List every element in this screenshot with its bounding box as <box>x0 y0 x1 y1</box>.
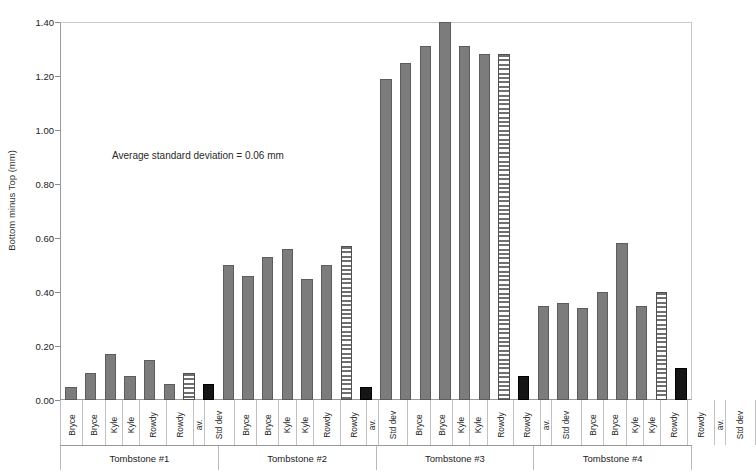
x-axis-category-label: Bryce <box>431 400 453 445</box>
y-axis-tick-label: 0.00 <box>18 395 54 406</box>
x-axis-category-label-text: Bryce <box>610 414 620 435</box>
bar[interactable] <box>400 63 411 401</box>
bar[interactable] <box>65 387 76 401</box>
bar[interactable] <box>656 292 667 400</box>
bar[interactable] <box>282 249 293 400</box>
x-axis-category-label-text: Std dev <box>562 411 572 439</box>
bar-slot <box>297 23 317 400</box>
x-axis-category-label: Std dev <box>726 400 755 445</box>
x-axis-category-label-text: Kyle <box>630 417 640 433</box>
bar[interactable] <box>164 384 175 400</box>
category-label-group: BryceBryceKyleKyleRowdyRowdyav.Std dev <box>235 400 409 445</box>
x-axis-category-label-text: Bryce <box>89 414 99 435</box>
bar[interactable] <box>85 373 96 400</box>
x-axis-category-label: av. <box>367 400 379 445</box>
x-axis-category-label: Kyle <box>453 400 470 445</box>
x-axis-category-label: Bryce <box>235 400 257 445</box>
bar[interactable] <box>538 306 549 401</box>
x-axis-category-label: Kyle <box>627 400 644 445</box>
x-axis-category-label-text: Rowdy <box>669 412 679 438</box>
bar[interactable] <box>498 54 509 400</box>
x-axis-category-label-text: Kyle <box>474 417 484 433</box>
x-axis-category-label: Bryce <box>83 400 105 445</box>
x-axis-category-label: Bryce <box>408 400 430 445</box>
x-axis-category-label-text: Rowdy <box>348 412 358 438</box>
bar[interactable] <box>144 360 155 401</box>
bar-slot <box>317 23 337 400</box>
bar-slot <box>81 23 101 400</box>
y-axis-tick-label: 1.20 <box>18 71 54 82</box>
x-axis-category-label: Rowdy <box>661 400 688 445</box>
bar[interactable] <box>301 279 312 401</box>
x-axis-category-label-text: Rowdy <box>522 412 532 438</box>
bar-slot <box>573 23 593 400</box>
x-axis-category-label: Rowdy <box>341 400 368 445</box>
x-axis-category-label-text: Bryce <box>67 414 77 435</box>
x-axis-category-label: Bryce <box>604 400 626 445</box>
x-axis-category-label: av. <box>541 400 553 445</box>
x-axis-category-label-text: Rowdy <box>175 412 185 438</box>
bar-series-layer <box>61 23 691 400</box>
bar[interactable] <box>518 376 529 400</box>
x-axis-category-label-text: Bryce <box>263 414 273 435</box>
y-axis-tick-label: 1.40 <box>18 17 54 28</box>
bar[interactable] <box>105 354 116 400</box>
bar-slot <box>671 23 691 400</box>
y-axis-tick-label: 1.00 <box>18 125 54 136</box>
bar-slot <box>179 23 199 400</box>
bar[interactable] <box>124 376 135 400</box>
bar[interactable] <box>341 246 352 400</box>
x-axis-category-label: Rowdy <box>167 400 194 445</box>
bar-slot <box>376 23 396 400</box>
x-axis-category-label-text: Rowdy <box>148 412 158 438</box>
bar[interactable] <box>557 303 568 400</box>
bar[interactable] <box>479 54 490 400</box>
bar-slot <box>278 23 298 400</box>
bar-slot <box>553 23 573 400</box>
x-axis-category-label: Kyle <box>279 400 296 445</box>
bar-group <box>219 23 377 400</box>
bar-slot <box>238 23 258 400</box>
x-axis-category-label-text: Kyle <box>109 417 119 433</box>
x-axis-category-label-text: Bryce <box>240 414 250 435</box>
x-axis-category-label-text: Kyle <box>126 417 136 433</box>
x-axis-group-label: Tombstone #1 <box>60 446 219 470</box>
x-axis-group-label: Tombstone #2 <box>219 446 377 470</box>
x-axis-category-label: av. <box>194 400 206 445</box>
bar-slot <box>415 23 435 400</box>
x-axis-group-label: Tombstone #3 <box>377 446 535 470</box>
bar[interactable] <box>242 276 253 400</box>
x-axis-category-label: Rowdy <box>488 400 515 445</box>
bar[interactable] <box>223 265 234 400</box>
bar[interactable] <box>636 306 647 401</box>
bar[interactable] <box>321 265 332 400</box>
bar[interactable] <box>616 243 627 400</box>
bar-slot <box>593 23 613 400</box>
x-axis-category-label: Kyle <box>123 400 140 445</box>
x-axis-category-label: Kyle <box>470 400 487 445</box>
x-axis-category-label-text: Bryce <box>436 414 446 435</box>
x-axis-category-label: Kyle <box>297 400 314 445</box>
bar[interactable] <box>439 22 450 400</box>
bar-slot <box>612 23 632 400</box>
bar[interactable] <box>420 46 431 400</box>
bar-slot <box>396 23 416 400</box>
x-axis-category-label-text: Rowdy <box>322 412 332 438</box>
y-axis-tick-label: 0.40 <box>18 287 54 298</box>
bar[interactable] <box>675 368 686 400</box>
bar[interactable] <box>597 292 608 400</box>
bar[interactable] <box>380 79 391 400</box>
x-axis-category-label-text: Kyle <box>647 417 657 433</box>
bar-slot <box>435 23 455 400</box>
bar[interactable] <box>203 384 214 400</box>
bar[interactable] <box>577 308 588 400</box>
bar-slot <box>534 23 554 400</box>
bar[interactable] <box>183 373 194 400</box>
bar[interactable] <box>459 46 470 400</box>
x-axis-group-labels: Tombstone #1Tombstone #2Tombstone #3Tomb… <box>60 446 692 470</box>
x-axis-category-label-text: Bryce <box>588 414 598 435</box>
bar-slot <box>159 23 179 400</box>
bar[interactable] <box>360 387 371 401</box>
bar[interactable] <box>262 257 273 400</box>
